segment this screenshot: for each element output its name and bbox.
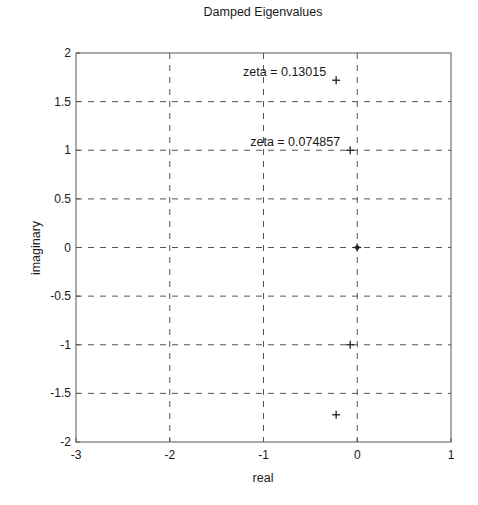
eigenvalue-marker	[346, 146, 354, 154]
y-tick-label: -2	[60, 435, 71, 449]
eigenvalue-marker	[332, 76, 340, 84]
y-tick-label: -0.5	[50, 289, 71, 303]
zeta-annotation: zeta = 0.13015	[243, 65, 326, 79]
zeta-annotation: zeta = 0.074857	[250, 135, 340, 149]
x-tick-label: 1	[448, 448, 455, 462]
x-tick-label: -3	[71, 448, 82, 462]
y-tick-label: 1	[64, 143, 71, 157]
y-tick-label: 0	[64, 241, 71, 255]
x-axis-label: real	[253, 471, 274, 485]
chart-title: Damped Eigenvalues	[204, 5, 323, 19]
y-tick-label: 0.5	[54, 192, 71, 206]
y-axis-label: imaginary	[29, 220, 43, 275]
eigenvalue-chart: Damped Eigenvalues -3-2-101 -2-1.5-1-0.5…	[0, 0, 478, 505]
grid-lines	[76, 53, 451, 442]
y-tick-label: -1	[60, 338, 71, 352]
y-tick-label: 2	[64, 46, 71, 60]
x-tick-label: -2	[164, 448, 175, 462]
zeta-annotations: zeta = 0.13015zeta = 0.074857	[243, 65, 340, 149]
eigenvalue-marker	[332, 411, 340, 419]
eigenvalue-marker	[353, 244, 361, 252]
x-tick-label: 0	[354, 448, 361, 462]
y-tick-label: -1.5	[50, 386, 71, 400]
eigenvalue-marker	[346, 341, 354, 349]
y-tick-label: 1.5	[54, 95, 71, 109]
x-tick-label: -1	[258, 448, 269, 462]
